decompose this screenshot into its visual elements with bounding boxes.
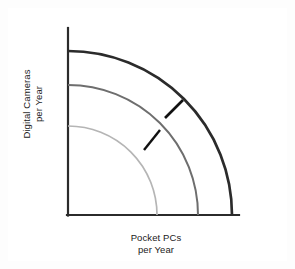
y-axis-label: Digital Cameras per Year xyxy=(21,53,45,155)
x-axis-label: Pocket PCs per Year xyxy=(96,232,216,256)
frontier-inner-arc xyxy=(68,126,157,215)
frontier-outer-arc xyxy=(68,51,232,215)
chart-plate: Digital Cameras per Year Pocket PCs per … xyxy=(8,8,287,261)
figure-canvas: Digital Cameras per Year Pocket PCs per … xyxy=(0,0,295,269)
growth-arrow-outer xyxy=(165,100,183,118)
growth-arrow-inner xyxy=(144,130,160,150)
ppf-chart xyxy=(8,8,287,261)
